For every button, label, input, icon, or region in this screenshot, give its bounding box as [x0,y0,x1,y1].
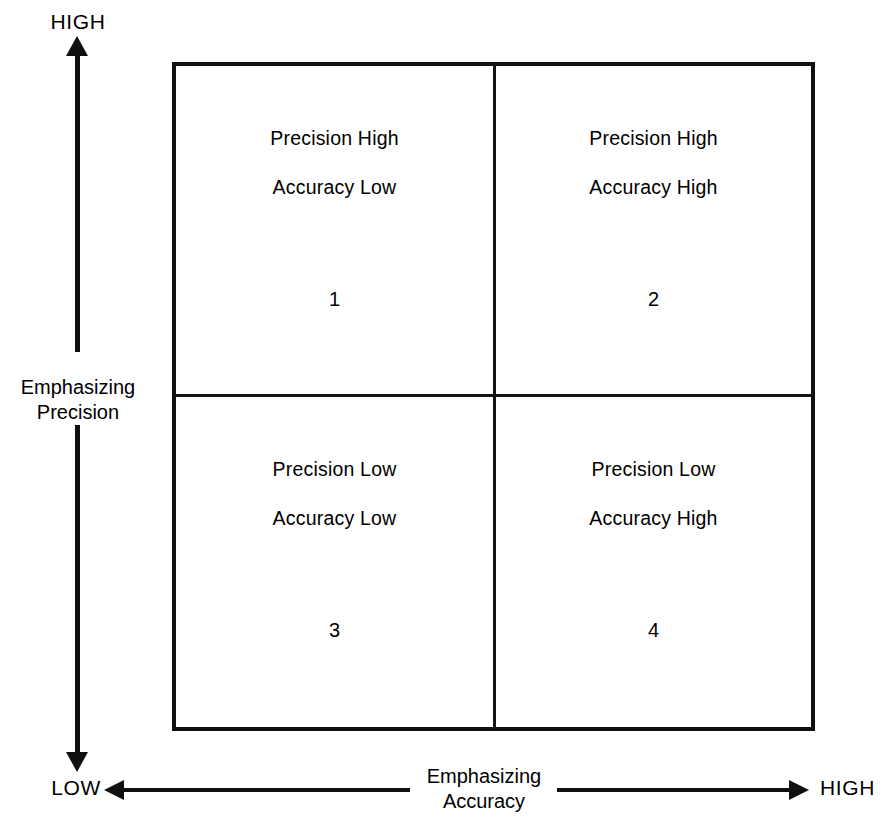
horizontal-axis-line-right [557,788,791,792]
quadrant-3-number: 3 [176,619,493,642]
quadrant-2: Precision High Accuracy High 2 [496,66,811,394]
horizontal-axis-right-arrow-icon [789,780,809,800]
quadrant-3-line2: Accuracy Low [176,507,493,530]
vertical-axis-title-line2: Precision [0,400,156,425]
quadrant-2-line1: Precision High [496,127,811,150]
vertical-axis-line-upper [75,52,80,352]
quadrant-4-line2: Accuracy High [496,507,811,530]
horizontal-axis-title: Emphasizing Accuracy [414,764,554,814]
horizontal-axis-title-line1: Emphasizing [414,764,554,789]
diagram-canvas: HIGH Emphasizing Precision LOW Precision… [0,0,893,821]
quadrant-4-line1: Precision Low [496,458,811,481]
quadrant-3-line1: Precision Low [176,458,493,481]
quadrant-1-line1: Precision High [176,127,493,150]
horizontal-axis-title-line2: Accuracy [414,789,554,814]
quadrant-1-number: 1 [176,288,493,311]
quadrant-2-number: 2 [496,288,811,311]
horizontal-axis-high-label: HIGH [820,776,875,800]
quadrant-1-line2: Accuracy Low [176,176,493,199]
quadrant-3: Precision Low Accuracy Low 3 [176,397,493,727]
quadrant-4-number: 4 [496,619,811,642]
vertical-axis-high-label: HIGH [0,10,156,34]
vertical-axis-line-lower [75,425,80,755]
horizontal-axis-left-arrow-icon [104,780,124,800]
quadrant-1: Precision High Accuracy Low 1 [176,66,493,394]
vertical-axis-title-line1: Emphasizing [0,375,156,400]
quadrant-2-line2: Accuracy High [496,176,811,199]
vertical-axis-down-arrow-icon [66,752,88,772]
quadrant-4: Precision Low Accuracy High 4 [496,397,811,727]
vertical-axis-title: Emphasizing Precision [0,375,156,425]
horizontal-axis-line-left [122,788,410,792]
